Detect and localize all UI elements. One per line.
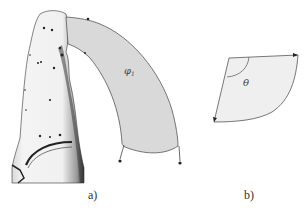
theta-label: θ — [243, 77, 249, 88]
caption-b: b) — [244, 188, 254, 203]
band-region — [66, 17, 182, 165]
caption-a: a) — [88, 188, 97, 203]
sector-diagram — [213, 53, 298, 122]
figure-canvas: φ1 θ — [0, 0, 306, 210]
